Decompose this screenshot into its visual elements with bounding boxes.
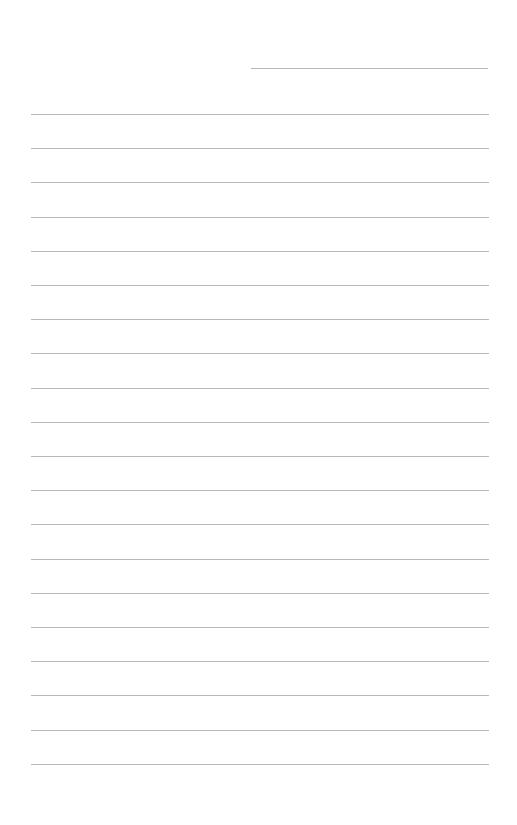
header-line — [251, 68, 488, 69]
ruled-line — [31, 730, 489, 731]
ruled-line — [31, 217, 489, 218]
ruled-line — [31, 764, 489, 765]
ruled-line — [31, 148, 489, 149]
ruled-line — [31, 251, 489, 252]
ruled-line — [31, 422, 489, 423]
ruled-line — [31, 319, 489, 320]
ruled-line — [31, 524, 489, 525]
ruled-line — [31, 593, 489, 594]
ruled-line — [31, 285, 489, 286]
ruled-line — [31, 456, 489, 457]
ruled-line — [31, 353, 489, 354]
ruled-line — [31, 661, 489, 662]
ruled-line — [31, 388, 489, 389]
ruled-line — [31, 559, 489, 560]
ruled-line — [31, 627, 489, 628]
ruled-line — [31, 490, 489, 491]
ruled-line — [31, 114, 489, 115]
ruled-line — [31, 182, 489, 183]
ruled-line — [31, 695, 489, 696]
